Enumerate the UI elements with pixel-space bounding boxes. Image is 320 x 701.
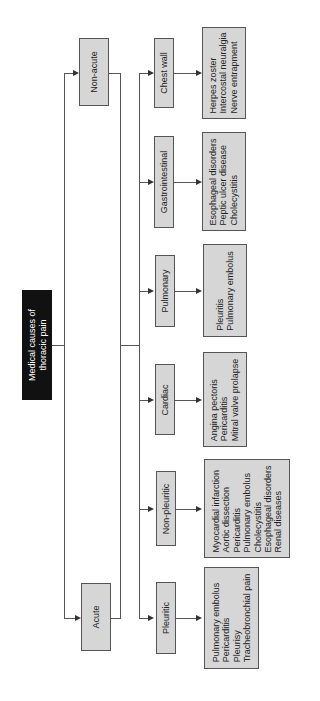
category-non-pleuritic: Non-pleuritic bbox=[156, 471, 176, 546]
cause-item: Pleurisy bbox=[232, 574, 242, 663]
category-pleuritic: Pleuritic bbox=[156, 582, 176, 654]
category-cardiac: Cardiac bbox=[155, 364, 175, 435]
cause-item: Cholecystitis bbox=[252, 465, 262, 552]
title-line-1: Medical causes of bbox=[27, 309, 38, 381]
causes-gastrointestinal: Esophageal disorders Peptic ulcer diseas… bbox=[202, 132, 246, 231]
causes-list: Esophageal disorders Peptic ulcer diseas… bbox=[208, 138, 239, 225]
category-label: Gastrointestinal bbox=[159, 151, 169, 214]
arrow-icon bbox=[148, 397, 154, 403]
cause-item: Pulmonary embolus bbox=[211, 574, 221, 663]
cause-item: Myocardial infarction bbox=[211, 465, 221, 552]
branch-label: Non-acute bbox=[89, 51, 99, 93]
categories-vertical bbox=[139, 73, 140, 619]
cause-item: Pericarditis bbox=[231, 465, 241, 552]
cause-item: Tracheobronchial pain bbox=[242, 574, 252, 663]
causes-chest-wall: Herpes zoster Intercostal neuralgia Nerv… bbox=[202, 27, 246, 119]
title-text: Medical causes of thoracic pain bbox=[27, 309, 48, 381]
connector bbox=[174, 182, 197, 183]
cause-item: Renal diseases bbox=[273, 465, 283, 552]
connector-title-trunk bbox=[52, 345, 64, 346]
cause-item: Aortic dissection bbox=[221, 465, 231, 552]
title-box: Medical causes of thoracic pain bbox=[22, 290, 52, 400]
causes-pleuritic: Pulmonary embolus Pericarditis Pleurisy … bbox=[204, 567, 259, 669]
causes-non-pleuritic: Myocardial infarction Aortic dissection … bbox=[204, 459, 290, 558]
cause-item: Pulmonary embolus bbox=[225, 251, 235, 331]
connector bbox=[174, 73, 197, 74]
cause-item: Cholecystitis bbox=[229, 138, 239, 225]
connector bbox=[175, 291, 197, 292]
connector-branch-out bbox=[109, 73, 120, 74]
causes-list: Pleuritis Pulmonary embolus bbox=[215, 251, 236, 331]
cause-item: Angina pectoris bbox=[209, 358, 219, 441]
connector-merge-categories bbox=[120, 345, 139, 346]
causes-list: Herpes zoster Intercostal neuralgia Nerv… bbox=[208, 32, 239, 113]
cause-item: Intercostal neuralgia bbox=[219, 32, 229, 113]
causes-list: Pulmonary embolus Pericarditis Pleurisy … bbox=[211, 574, 253, 663]
connector bbox=[176, 618, 197, 619]
category-label: Pleuritic bbox=[161, 602, 171, 634]
category-label: Non-pleuritic bbox=[161, 483, 171, 534]
connector bbox=[175, 400, 197, 401]
arrow-icon bbox=[196, 506, 202, 512]
category-chest-wall: Chest wall bbox=[154, 38, 174, 108]
cause-item: Pleuritis bbox=[215, 251, 225, 331]
cause-item: Pulmonary embolus bbox=[242, 465, 252, 552]
connector-acute bbox=[64, 618, 75, 619]
cause-item: Herpes zoster bbox=[208, 32, 218, 113]
causes-cardiac: Angina pectoris Pericarditis Mitral valv… bbox=[203, 352, 247, 447]
cause-item: Mitral valve prolapse bbox=[230, 358, 240, 441]
arrow-icon bbox=[148, 615, 154, 621]
trunk-vertical bbox=[64, 73, 65, 619]
cause-item: Esophageal disorders bbox=[263, 465, 273, 552]
arrow-icon bbox=[196, 397, 202, 403]
arrow-icon bbox=[196, 615, 202, 621]
causes-pulmonary: Pleuritis Pulmonary embolus bbox=[203, 244, 247, 337]
branch-acute: Acute bbox=[81, 583, 111, 651]
arrow-icon bbox=[148, 506, 154, 512]
branch-merge-vertical bbox=[120, 73, 121, 619]
branch-non-acute: Non-acute bbox=[79, 38, 109, 106]
cause-item: Pericarditis bbox=[220, 358, 230, 441]
causes-list: Myocardial infarction Aortic dissection … bbox=[211, 465, 284, 552]
category-pulmonary: Pulmonary bbox=[155, 255, 175, 327]
branch-label: Acute bbox=[91, 605, 101, 628]
category-label: Chest wall bbox=[159, 52, 169, 94]
arrow-icon bbox=[196, 288, 202, 294]
cause-item: Nerve entrapment bbox=[229, 32, 239, 113]
cause-item: Esophageal disorders bbox=[208, 138, 218, 225]
cause-item: Pericarditis bbox=[221, 574, 231, 663]
category-gastrointestinal: Gastrointestinal bbox=[154, 136, 174, 228]
arrow-icon bbox=[148, 288, 154, 294]
causes-list: Angina pectoris Pericarditis Mitral valv… bbox=[209, 358, 240, 441]
connector bbox=[176, 509, 197, 510]
category-label: Cardiac bbox=[160, 384, 170, 415]
title-line-2: thoracic pain bbox=[37, 309, 48, 381]
category-label: Pulmonary bbox=[160, 269, 170, 312]
cause-item: Peptic ulcer disease bbox=[219, 138, 229, 225]
